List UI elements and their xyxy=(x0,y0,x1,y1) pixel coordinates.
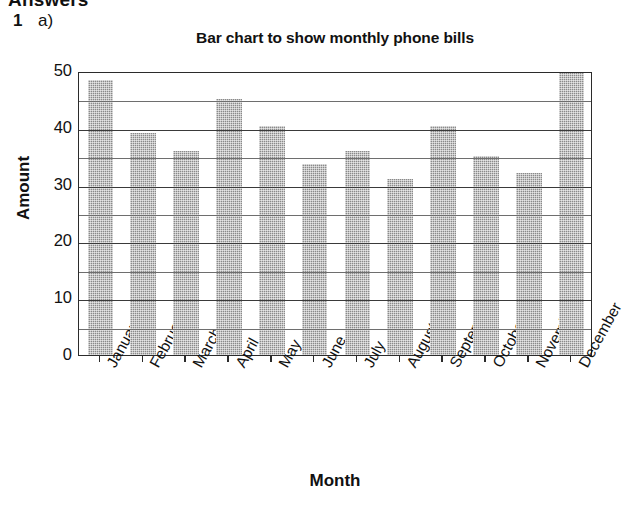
x-tick-mark xyxy=(356,356,358,362)
bar-january xyxy=(88,80,114,355)
x-axis-tick-labels: JanuaryFebruaryMarchAprilMayJuneJulyAugu… xyxy=(78,356,592,466)
gridline xyxy=(79,158,591,159)
chart-title: Bar chart to show monthly phone bills xyxy=(78,29,592,47)
y-tick-label: 10 xyxy=(26,288,72,307)
x-tick-mark xyxy=(441,356,443,362)
gridline xyxy=(79,130,591,131)
x-tick-mark xyxy=(270,356,272,362)
x-tick-mark xyxy=(227,356,229,362)
y-tick-label: 20 xyxy=(26,231,72,250)
plot-area xyxy=(78,72,592,356)
bar-july xyxy=(345,151,371,355)
x-tick-mark xyxy=(313,356,315,362)
bar-september xyxy=(430,126,456,355)
x-tick-mark xyxy=(142,356,144,362)
x-tick-mark xyxy=(399,356,401,362)
bar-december xyxy=(559,72,585,355)
bars-group xyxy=(79,73,591,355)
bar-june xyxy=(302,164,328,355)
x-axis-title: Month xyxy=(78,471,592,491)
bar-march xyxy=(173,151,199,355)
gridline xyxy=(79,215,591,216)
gridline xyxy=(79,187,591,188)
y-tick-label: 30 xyxy=(26,175,72,194)
bar-april xyxy=(216,99,242,355)
bar-may xyxy=(259,126,285,355)
y-tick-label: 50 xyxy=(26,61,72,80)
gridline xyxy=(79,243,591,244)
x-tick-mark xyxy=(99,356,101,362)
x-tick-mark xyxy=(527,356,529,362)
x-tick-mark xyxy=(184,356,186,362)
x-tick-mark xyxy=(484,356,486,362)
gridline xyxy=(79,272,591,273)
y-axis-tick-labels: 01020304050 xyxy=(20,72,72,356)
x-tick-mark xyxy=(570,356,572,362)
y-tick-label: 0 xyxy=(26,345,72,364)
gridline xyxy=(79,300,591,301)
gridline xyxy=(79,329,591,330)
y-tick-label: 40 xyxy=(26,118,72,137)
gridline xyxy=(79,101,591,102)
